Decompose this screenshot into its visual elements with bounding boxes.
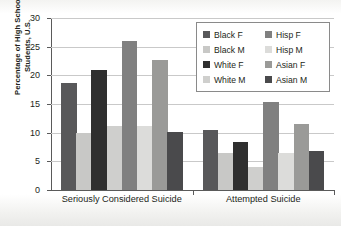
- legend-item-label: White M: [214, 75, 246, 85]
- bar-asian-m-group-2: [309, 151, 325, 190]
- bar-black-f-group-1: [61, 83, 77, 190]
- y-axis-tick-label: 15: [0, 99, 40, 109]
- legend-swatch-icon: [203, 46, 210, 53]
- bar-black-m-group-2: [218, 153, 234, 190]
- bar-hisp-m-group-1: [137, 126, 153, 190]
- bar-white-m-group-2: [248, 167, 264, 190]
- legend-swatch-icon: [265, 61, 272, 68]
- bar-asian-m-group-1: [167, 132, 183, 190]
- legend-item-label: Black F: [214, 30, 243, 40]
- bar-hisp-f-group-2: [263, 102, 279, 190]
- legend-swatch-icon: [203, 31, 210, 38]
- y-axis-tick-label: 25: [0, 42, 40, 52]
- legend-item-white-f[interactable]: White F: [203, 57, 262, 72]
- x-axis-separator: [334, 190, 335, 195]
- legend-item-label: Black M: [214, 45, 245, 55]
- y-axis-tick-label: 5: [0, 156, 40, 166]
- legend-item-white-m[interactable]: White M: [203, 72, 262, 87]
- legend-swatch-icon: [265, 76, 272, 83]
- y-axis-tick: [47, 190, 52, 191]
- y-axis-tick-label: 0: [0, 185, 40, 195]
- y-axis-tick-label: 20: [0, 70, 40, 80]
- gridline: [51, 18, 334, 19]
- legend-item-label: Asian M: [276, 75, 307, 85]
- y-axis-tick-label: 30: [0, 13, 40, 23]
- legend-item-hisp-m[interactable]: Hisp M: [265, 42, 324, 57]
- bar-asian-f-group-2: [294, 124, 310, 190]
- bar-asian-f-group-1: [152, 60, 168, 190]
- legend-item-hisp-f[interactable]: Hisp F: [265, 27, 324, 42]
- legend-swatch-icon: [265, 46, 272, 53]
- legend-item-label: White F: [214, 60, 244, 70]
- bar-hisp-f-group-1: [122, 41, 138, 190]
- legend-swatch-icon: [203, 76, 210, 83]
- x-axis-label-2: Attempted Suicide: [193, 194, 335, 204]
- legend-item-label: Asian F: [276, 60, 305, 70]
- legend-item-black-f[interactable]: Black F: [203, 27, 262, 42]
- bar-white-m-group-1: [107, 126, 123, 190]
- bar-black-m-group-1: [76, 133, 92, 190]
- legend-item-black-m[interactable]: Black M: [203, 42, 262, 57]
- chart-figure: Percentage of High School Students, U.S.…: [0, 0, 341, 226]
- legend-item-asian-m[interactable]: Asian M: [265, 72, 324, 87]
- y-axis-tick-label: 10: [0, 128, 40, 138]
- chart-legend: Black FHisp FBlack MHisp MWhite FAsian F…: [196, 22, 330, 92]
- legend-item-label: Hisp M: [276, 45, 303, 55]
- bar-white-f-group-2: [233, 142, 249, 190]
- bar-black-f-group-2: [203, 130, 219, 190]
- legend-swatch-icon: [203, 61, 210, 68]
- legend-item-asian-f[interactable]: Asian F: [265, 57, 324, 72]
- x-axis-label-1: Seriously Considered Suicide: [51, 194, 193, 204]
- legend-swatch-icon: [265, 31, 272, 38]
- bar-white-f-group-1: [91, 70, 107, 190]
- legend-item-label: Hisp F: [276, 30, 301, 40]
- bar-hisp-m-group-2: [278, 153, 294, 190]
